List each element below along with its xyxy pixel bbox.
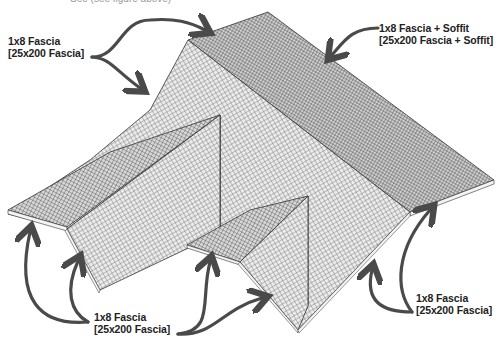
- label-line-2: [25x200 Fascia]: [416, 304, 492, 316]
- label-bottom-center-fascia: 1x8 Fascia [25x200 Fascia]: [94, 311, 170, 335]
- arrow-top-left-to-front: [92, 57, 140, 88]
- label-bottom-right-fascia: 1x8 Fascia [25x200 Fascia]: [416, 292, 492, 316]
- cut-off-header-text: See (see figure above): [70, 0, 171, 4]
- label-line-1: 1x8 Fascia + Soffit: [379, 22, 493, 34]
- label-line-2: [25x200 Fascia + Soffit]: [379, 34, 493, 46]
- arrow-bottom-to-left-hip: [71, 261, 88, 322]
- arrow-top-right-to-eave: [332, 28, 378, 55]
- label-line-1: 1x8 Fascia: [416, 292, 492, 304]
- label-line-2: [25x200 Fascia]: [94, 323, 170, 335]
- label-top-right-fascia-soffit: 1x8 Fascia + Soffit [25x200 Fascia + Sof…: [379, 22, 493, 46]
- arrow-bottom-right-to-front: [370, 270, 412, 312]
- label-top-left-fascia: 1x8 Fascia [25x200 Fascia]: [8, 35, 84, 59]
- label-line-2: [25x200 Fascia]: [8, 47, 84, 59]
- label-line-1: 1x8 Fascia: [94, 311, 170, 323]
- arrow-bottom-to-right-hip: [178, 298, 262, 334]
- arrow-bottom-to-right-gable: [178, 262, 210, 334]
- label-line-1: 1x8 Fascia: [8, 35, 84, 47]
